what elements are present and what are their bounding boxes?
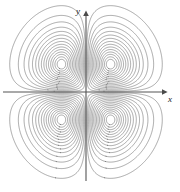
x-axis-label: x <box>167 94 172 104</box>
y-axis-label: y <box>75 6 80 16</box>
contour-plot-figure: x y <box>0 0 180 192</box>
contour-plot-canvas: x y <box>0 0 180 192</box>
